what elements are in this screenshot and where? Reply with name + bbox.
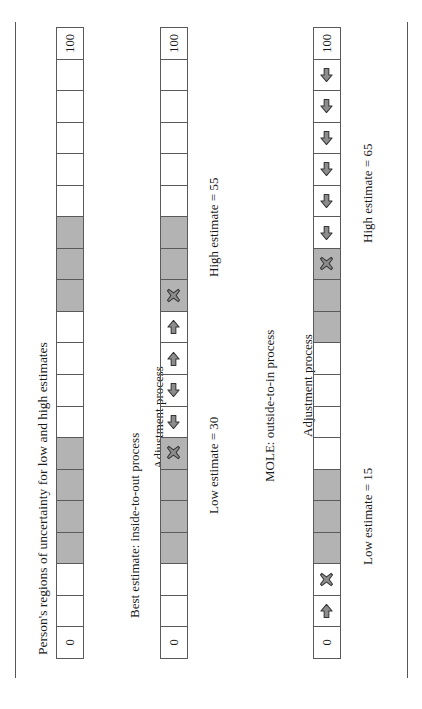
scale-cell[interactable]	[161, 533, 187, 565]
scale-cell[interactable]	[314, 217, 340, 249]
scale-cell[interactable]	[314, 596, 340, 628]
high-estimate-label-outside-to-in: High estimate = 65	[360, 144, 376, 243]
scale-cell[interactable]	[314, 407, 340, 439]
arrow-down-icon	[319, 98, 335, 114]
scale-cell[interactable]	[314, 280, 340, 312]
scale-cell[interactable]	[314, 154, 340, 186]
arrow-down-icon	[319, 193, 335, 209]
scale-cell[interactable]	[314, 501, 340, 533]
scale-cell[interactable]	[161, 470, 187, 502]
cross-marker-icon	[319, 572, 335, 588]
arrow-down-icon	[319, 225, 335, 241]
scale-cell[interactable]	[57, 217, 83, 249]
cross-marker-icon	[166, 445, 182, 461]
figure-title: Person's regions of uncertainty for low …	[35, 342, 51, 655]
scale-max-label: 100	[64, 34, 77, 53]
scale-cell[interactable]	[161, 217, 187, 249]
scale-cell[interactable]	[57, 438, 83, 470]
scale-cell[interactable]	[57, 533, 83, 565]
scale-cell[interactable]	[314, 375, 340, 407]
scale-cell[interactable]	[161, 501, 187, 533]
low-estimate-label-outside-to-in: Low estimate = 15	[360, 468, 376, 565]
scale-cell[interactable]	[57, 154, 83, 186]
scale-cell[interactable]	[161, 123, 187, 155]
scale-min-label: 0	[168, 640, 181, 646]
scale-cell[interactable]: 100	[314, 28, 340, 60]
outside-to-in-bar[interactable]: 1000	[313, 27, 341, 659]
scale-cell[interactable]	[314, 249, 340, 281]
scale-cell[interactable]	[314, 533, 340, 565]
inside-to-out-bar[interactable]: 1000	[160, 27, 188, 659]
arrow-down-icon	[319, 67, 335, 83]
scale-cell[interactable]	[161, 312, 187, 344]
scale-cell[interactable]	[57, 470, 83, 502]
scale-cell[interactable]	[314, 343, 340, 375]
scale-cell[interactable]	[57, 501, 83, 533]
scale-cell[interactable]	[314, 312, 340, 344]
scale-cell[interactable]: 0	[314, 627, 340, 658]
arrow-down-icon	[166, 414, 182, 430]
scale-cell[interactable]	[161, 249, 187, 281]
scale-cell[interactable]	[57, 186, 83, 218]
bottom-horizontal-rule	[407, 22, 408, 678]
scale-max-label: 100	[168, 34, 181, 53]
scale-cell[interactable]	[314, 60, 340, 92]
scale-cell[interactable]	[314, 186, 340, 218]
arrow-up-icon	[319, 603, 335, 619]
arrow-up-icon	[166, 319, 182, 335]
scale-cell[interactable]	[57, 312, 83, 344]
scale-cell[interactable]	[314, 438, 340, 470]
panel-caption-outside-to-in: MOLE: outside-to-in process	[262, 330, 278, 482]
scale-cell[interactable]	[57, 249, 83, 281]
scale-cell[interactable]: 0	[161, 627, 187, 658]
scale-cell[interactable]: 100	[57, 28, 83, 60]
scale-cell[interactable]: 100	[161, 28, 187, 60]
scale-cell[interactable]	[57, 280, 83, 312]
scale-max-label: 100	[321, 34, 334, 53]
scale-cell[interactable]	[161, 375, 187, 407]
scale-cell[interactable]	[57, 596, 83, 628]
cross-marker-icon	[166, 288, 182, 304]
scale-cell[interactable]	[57, 91, 83, 123]
arrow-up-icon	[166, 351, 182, 367]
top-horizontal-rule	[15, 22, 16, 678]
scale-cell[interactable]	[57, 60, 83, 92]
scale-cell[interactable]: 0	[57, 627, 83, 658]
scale-cell[interactable]	[57, 407, 83, 439]
scale-cell[interactable]	[161, 91, 187, 123]
scale-cell[interactable]	[161, 343, 187, 375]
cross-marker-icon	[319, 256, 335, 272]
arrow-down-icon	[319, 130, 335, 146]
scale-cell[interactable]	[161, 564, 187, 596]
scale-cell[interactable]	[161, 154, 187, 186]
scale-cell[interactable]	[161, 438, 187, 470]
scale-min-label: 0	[321, 640, 334, 646]
scale-cell[interactable]	[57, 564, 83, 596]
scale-cell[interactable]	[57, 375, 83, 407]
scale-cell[interactable]	[161, 407, 187, 439]
scale-cell[interactable]	[314, 564, 340, 596]
low-estimate-label-inside-to-out: Low estimate = 30	[206, 417, 222, 514]
scale-cell[interactable]	[314, 91, 340, 123]
scale-cell[interactable]	[161, 280, 187, 312]
scale-cell[interactable]	[57, 343, 83, 375]
arrow-down-icon	[166, 382, 182, 398]
scale-cell[interactable]	[161, 186, 187, 218]
scale-cell[interactable]	[161, 596, 187, 628]
arrow-down-icon	[319, 161, 335, 177]
scale-min-label: 0	[64, 640, 77, 646]
panel-caption-inside-to-out: Best estimate: inside-to-out process	[127, 433, 143, 618]
scale-cell[interactable]	[161, 60, 187, 92]
scale-cell[interactable]	[314, 123, 340, 155]
scale-cell[interactable]	[57, 123, 83, 155]
scale-cell[interactable]	[314, 470, 340, 502]
uncertainty-regions-bar[interactable]: 1000	[56, 27, 84, 659]
high-estimate-label-inside-to-out: High estimate = 55	[206, 178, 222, 277]
